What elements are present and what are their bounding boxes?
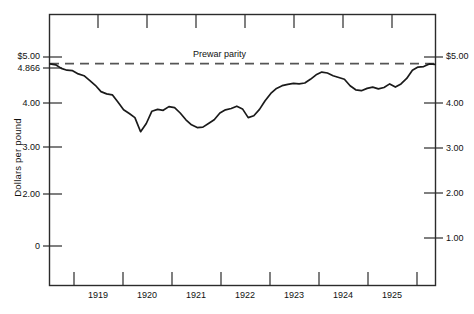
y-axis-right-tick-label: 4.00 (446, 99, 464, 108)
exchange-rate-line (50, 64, 435, 132)
y-axis-left-tick-label: 0 (0, 242, 40, 251)
x-ticks-top (98, 15, 392, 29)
y-axis-right-tick-label: 3.00 (446, 144, 464, 153)
y-axis-right-tick-label: 2.00 (446, 189, 464, 198)
x-axis-tick-label: 1925 (367, 291, 417, 300)
y-axis-left-tick-label: $5.00 (0, 52, 40, 61)
y-axis-right-tick-label: $5.00 (446, 52, 469, 61)
x-axis-tick-label: 1920 (122, 291, 172, 300)
y-axis-right-tick-label: 1.00 (446, 234, 464, 243)
x-axis-tick-label: 1922 (220, 291, 270, 300)
y-ticks-left (43, 57, 62, 246)
y-axis-title: Dollars per pound (12, 103, 23, 213)
x-ticks-bottom (74, 272, 417, 286)
x-axis-tick-label: 1921 (171, 291, 221, 300)
chart-figure: $5.00 4.866 4.00 3.00 2.00 0 $5.00 4.00 … (0, 0, 474, 314)
chart-plot-area (0, 0, 474, 314)
x-axis-tick-label: 1919 (73, 291, 123, 300)
y-ticks-right (424, 57, 443, 238)
x-axis-tick-label: 1924 (318, 291, 368, 300)
y-axis-left-tick-label: 4.866 (0, 64, 40, 73)
prewar-parity-annotation: Prewar parity (193, 49, 246, 59)
x-axis-tick-label: 1923 (269, 291, 319, 300)
